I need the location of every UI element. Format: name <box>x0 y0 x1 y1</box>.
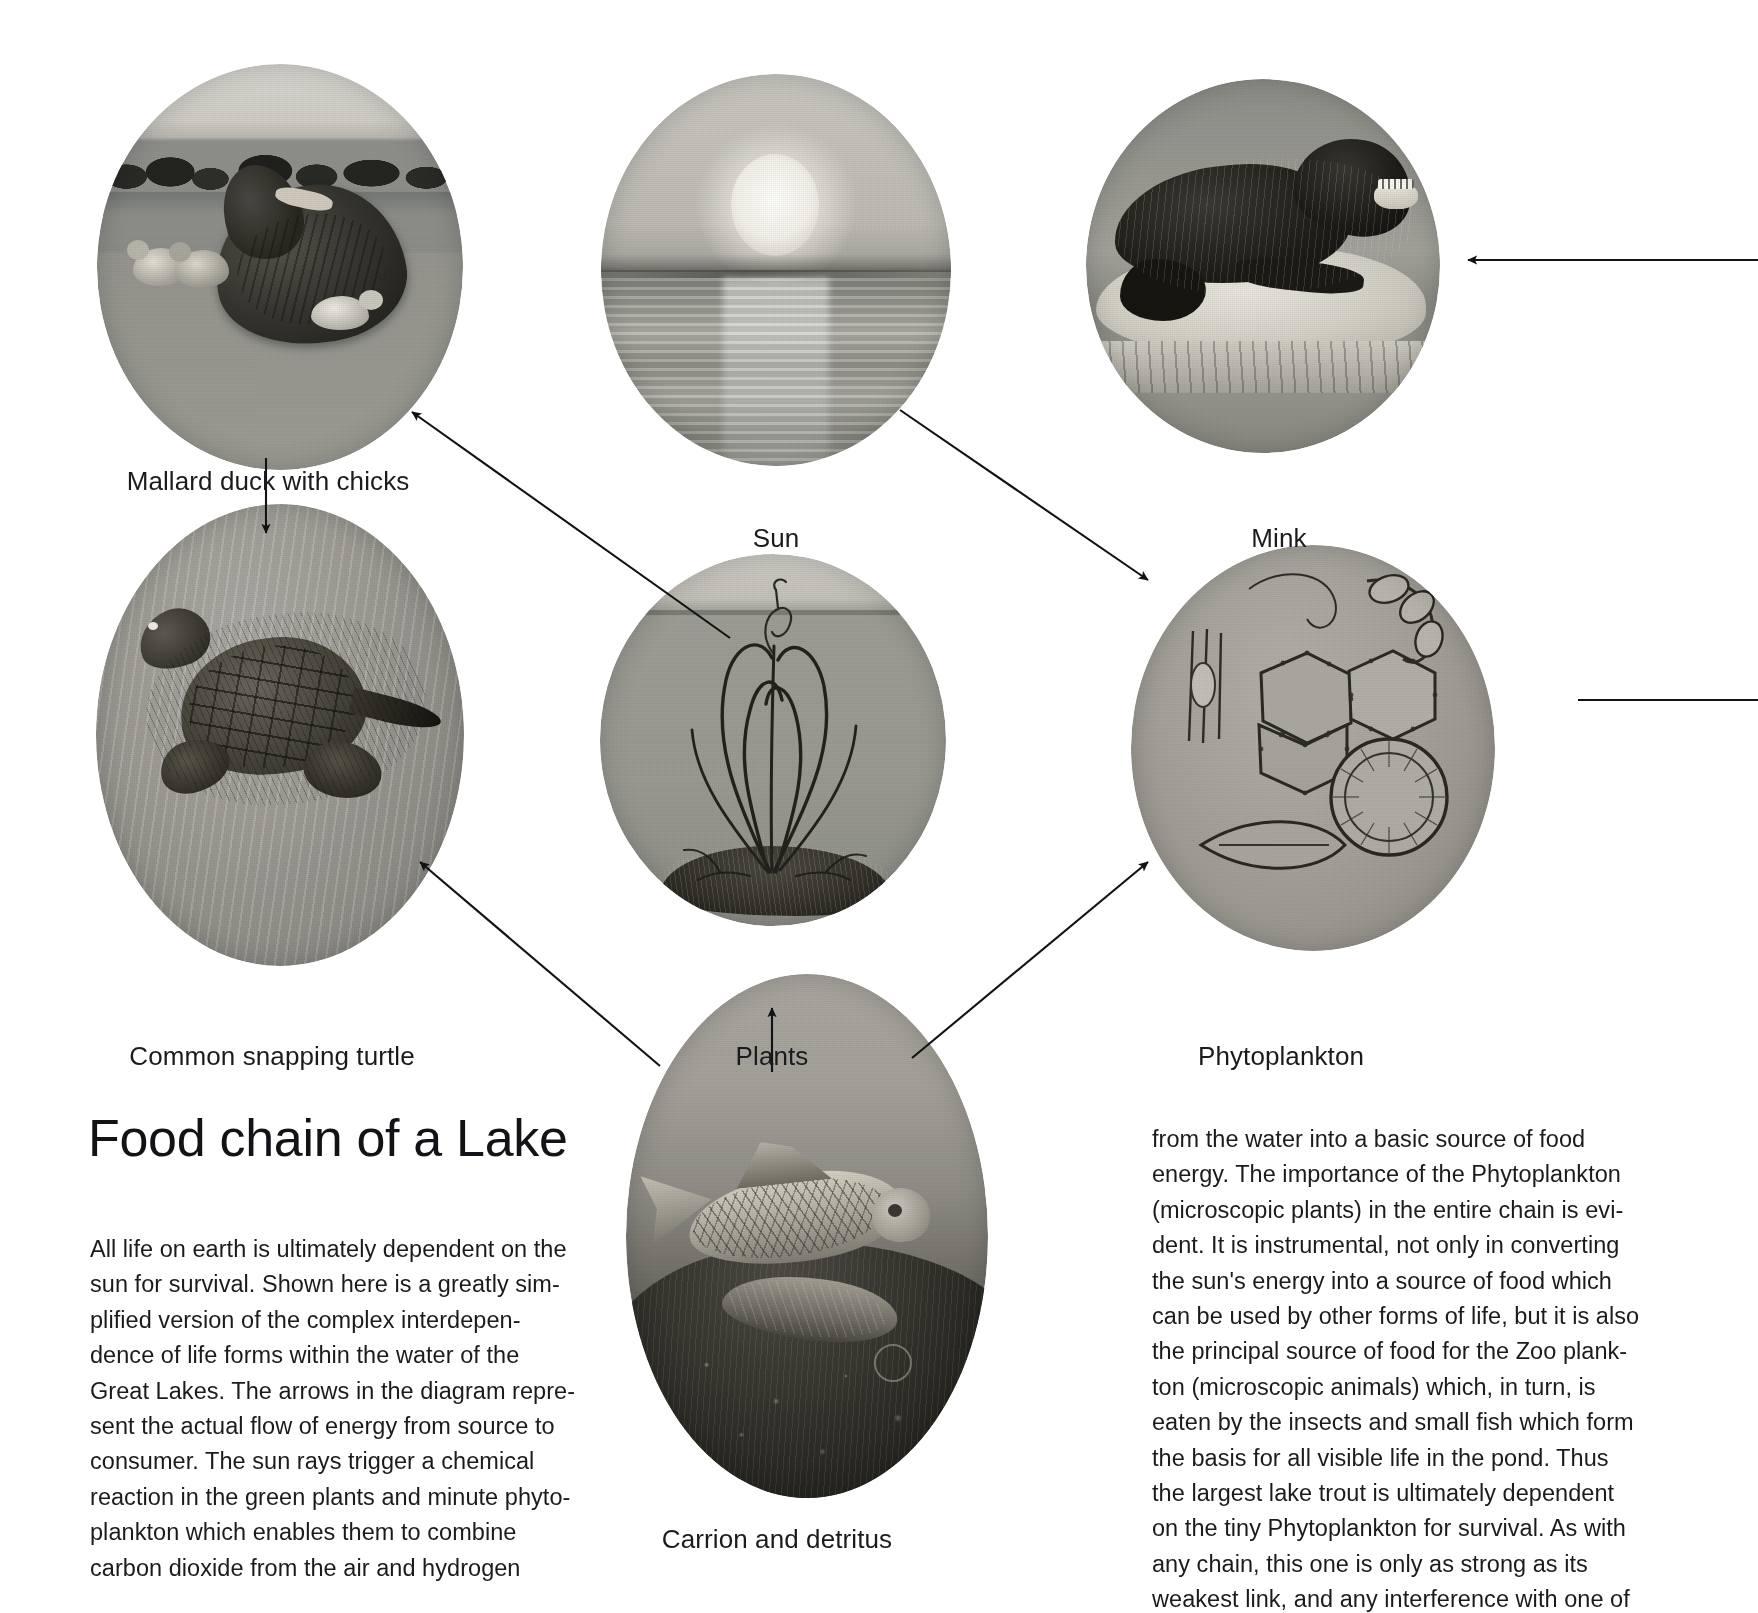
body-right-line: any chain, this one is only as strong as… <box>1152 1547 1712 1582</box>
caption-mink: Mink <box>1251 523 1306 554</box>
photo-mink <box>1086 79 1440 453</box>
body-right-line: dent. It is instrumental, not only in co… <box>1152 1228 1712 1263</box>
body-right-line: weakest link, and any interference with … <box>1152 1582 1712 1613</box>
body-right-line: the basis for all visible life in the po… <box>1152 1441 1712 1476</box>
page-title: Food chain of a Lake <box>88 1108 568 1168</box>
body-left-line: dence of life forms within the water of … <box>90 1338 590 1373</box>
arrow-carrion-to-phytoplankton <box>912 862 1148 1058</box>
body-left-line: plankton which enables them to combine <box>90 1515 590 1550</box>
body-left-line: sun for survival. Shown here is a greatl… <box>90 1267 590 1302</box>
photo-snapping-turtle <box>96 504 464 966</box>
body-right-line: the sun's energy into a source of food w… <box>1152 1264 1712 1299</box>
photo-sun <box>601 74 951 466</box>
caption-phytoplankton: Phytoplankton <box>1198 1041 1364 1072</box>
body-text-right-column: from the water into a basic source of fo… <box>1152 1122 1712 1613</box>
caption-plants: Plants <box>736 1041 809 1072</box>
body-left-line: plified version of the complex interdepe… <box>90 1303 590 1338</box>
body-right-line: ton (microscopic animals) which, in turn… <box>1152 1370 1712 1405</box>
body-right-line: on the tiny Phytoplankton for survival. … <box>1152 1511 1712 1546</box>
caption-sun: Sun <box>753 523 800 554</box>
caption-snapping-turtle: Common snapping turtle <box>129 1041 414 1072</box>
body-right-line: the largest lake trout is ultimately dep… <box>1152 1476 1712 1511</box>
caption-carrion-detritus: Carrion and detritus <box>662 1524 892 1555</box>
caption-mallard-duck: Mallard duck with chicks <box>127 466 410 497</box>
body-right-line: eaten by the insects and small fish whic… <box>1152 1405 1712 1440</box>
photo-plants <box>600 554 946 926</box>
body-left-line: carbon dioxide from the air and hydrogen <box>90 1551 590 1586</box>
body-right-line: (microscopic plants) in the entire chain… <box>1152 1193 1712 1228</box>
body-right-line: can be used by other forms of life, but … <box>1152 1299 1712 1334</box>
body-left-line: consumer. The sun rays trigger a chemica… <box>90 1444 590 1479</box>
body-text-left-column: All life on earth is ultimately dependen… <box>90 1232 590 1586</box>
body-right-line: from the water into a basic source of fo… <box>1152 1122 1712 1157</box>
photo-mallard-duck <box>97 64 463 470</box>
body-right-line: the principal source of food for the Zoo… <box>1152 1334 1712 1369</box>
body-left-line: sent the actual flow of energy from sour… <box>90 1409 590 1444</box>
body-left-line: All life on earth is ultimately dependen… <box>90 1232 590 1267</box>
photo-phytoplankton <box>1131 545 1495 951</box>
body-left-line: Great Lakes. The arrows in the diagram r… <box>90 1374 590 1409</box>
body-right-line: energy. The importance of the Phytoplank… <box>1152 1157 1712 1192</box>
food-chain-diagram-page: Mallard duck with chicks Sun Mink Common… <box>0 0 1758 1613</box>
body-left-line: reaction in the green plants and minute … <box>90 1480 590 1515</box>
